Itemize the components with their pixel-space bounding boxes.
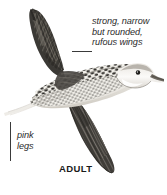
- head: [117, 63, 164, 88]
- wing-annotation: strong, narrow but rounded, rufous wings: [92, 16, 149, 48]
- wing-annotation-line-3: rufous wings: [92, 37, 149, 48]
- legs-annotation-line-2: legs: [17, 141, 33, 152]
- eye: [136, 70, 141, 75]
- wing-leader-line: [72, 51, 92, 52]
- wing-annotation-line-2: but rounded,: [92, 27, 149, 38]
- legs-annotation: pink legs: [17, 130, 33, 151]
- legs-annotation-line-1: pink: [17, 130, 33, 141]
- legs-leader-line: [10, 122, 11, 161]
- upper-wing: [24, 4, 74, 78]
- bird-illustration-plate: strong, narrow but rounded, rufous wings…: [0, 0, 167, 195]
- wing-annotation-line-1: strong, narrow: [92, 16, 149, 27]
- age-stage-label: ADULT: [59, 163, 92, 174]
